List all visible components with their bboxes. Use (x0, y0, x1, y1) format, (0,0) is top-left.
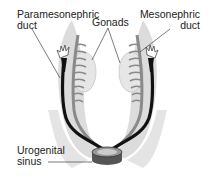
gonads-leader-left (92, 28, 108, 60)
gonads-leader-right (108, 28, 120, 63)
paramesonephric-label-line2: duct (17, 20, 99, 31)
paramesonephric-duct-label: Paramesonephric duct (17, 9, 99, 31)
gonads-label: Gonads (92, 17, 129, 28)
mesonephric-label-line2: duct (138, 20, 200, 31)
paramesonephric-leader (32, 29, 60, 78)
urogenital-sinus (92, 147, 122, 165)
mesonephric-duct-label: Mesonephric duct (138, 9, 200, 31)
urogenital-label-line2: sinus (17, 156, 65, 167)
urogenital-sinus-label: Urogenital sinus (17, 145, 65, 167)
